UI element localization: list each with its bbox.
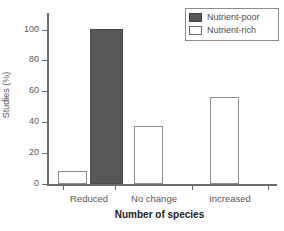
bar-chart-figure: Nutrient-poor Nutrient-rich Studies (%) … <box>0 0 284 231</box>
y-tick-60: 60 <box>42 91 47 92</box>
y-tick-20: 20 <box>42 153 47 154</box>
x-category-label-reduced: Reduced <box>70 193 108 204</box>
bar-nutrient-rich-reduced <box>58 171 87 184</box>
x-tick-1 <box>115 185 116 190</box>
y-axis-title: Studies (%) <box>1 65 11 125</box>
x-tick-2 <box>192 185 193 190</box>
y-tick-0: 0 <box>42 184 47 185</box>
x-category-label-no-change: No change <box>131 193 177 204</box>
y-tick-label-80: 80 <box>29 54 39 64</box>
y-tick-100: 100 <box>42 30 47 31</box>
x-category-label-increased: Increased <box>209 193 251 204</box>
y-tick-label-0: 0 <box>34 178 39 188</box>
bar-nutrient-poor-reduced <box>90 29 123 184</box>
y-tick-40: 40 <box>42 122 47 123</box>
x-tick-0 <box>63 185 64 190</box>
plot-area: 0 20 40 60 80 100 Reduced No change <box>47 13 277 185</box>
y-tick-label-20: 20 <box>29 147 39 157</box>
y-tick-label-100: 100 <box>24 24 39 34</box>
y-tick-label-60: 60 <box>29 85 39 95</box>
bar-nutrient-rich-no-change <box>134 126 163 184</box>
y-axis-line <box>47 13 49 185</box>
y-tick-80: 80 <box>42 60 47 61</box>
x-axis-title: Number of species <box>47 209 272 220</box>
bar-nutrient-rich-increased <box>210 97 239 184</box>
x-axis-line <box>47 184 277 186</box>
x-tick-3 <box>268 185 269 190</box>
y-tick-label-40: 40 <box>29 116 39 126</box>
